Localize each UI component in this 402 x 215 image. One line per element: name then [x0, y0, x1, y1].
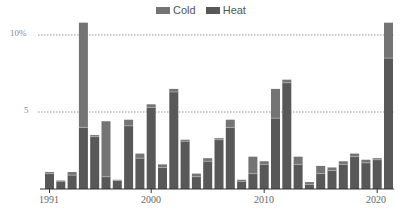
bar-cold-1998 [124, 120, 133, 126]
bar-2020 [373, 158, 382, 189]
bar-2003 [181, 140, 190, 189]
x-label-2000: 2000 [141, 194, 161, 205]
y-label-10: 10% [10, 28, 27, 38]
bar-cold-2007 [226, 120, 235, 128]
bar-heat-2019 [361, 163, 370, 189]
bar-heat-2002 [169, 92, 178, 189]
bar-heat-2015 [316, 174, 325, 189]
stacked-bar-chart [0, 0, 402, 215]
bar-heat-2006 [215, 140, 224, 189]
bar-heat-2008 [237, 181, 246, 189]
bar-1998 [124, 120, 133, 189]
bar-2015 [316, 166, 325, 189]
bar-1996 [102, 121, 111, 189]
bar-heat-2016 [328, 171, 337, 189]
x-ticks [50, 189, 378, 193]
bar-1999 [135, 154, 144, 189]
bar-2000 [147, 104, 156, 189]
bar-1992 [56, 181, 65, 189]
bar-cold-2016 [328, 167, 337, 170]
bar-heat-2001 [158, 167, 167, 189]
bar-heat-2020 [373, 160, 382, 189]
bar-1991 [45, 172, 54, 189]
bar-2007 [226, 120, 235, 189]
bar-heat-1997 [113, 181, 122, 189]
bar-heat-1999 [135, 158, 144, 189]
bar-heat-2007 [226, 127, 235, 189]
bar-heat-2005 [203, 161, 212, 189]
bar-heat-1994 [79, 127, 88, 189]
bar-1997 [113, 180, 122, 189]
bar-cold-2009 [248, 157, 257, 174]
gridlines [38, 35, 394, 112]
bar-2016 [328, 167, 337, 189]
bar-1995 [90, 135, 99, 189]
bar-cold-2012 [282, 80, 291, 83]
bar-1994 [79, 23, 88, 189]
bar-cold-2011 [271, 89, 280, 118]
bar-heat-1995 [90, 137, 99, 189]
bar-heat-2011 [271, 118, 280, 189]
bar-2009 [248, 157, 257, 189]
bar-heat-1992 [56, 181, 65, 189]
bar-heat-1993 [68, 175, 77, 189]
bar-2010 [260, 161, 269, 189]
x-label-1991: 1991 [39, 194, 59, 205]
bar-2002 [169, 89, 178, 189]
bar-heat-2004 [192, 177, 201, 189]
bar-cold-2000 [147, 104, 156, 107]
bar-cold-2017 [339, 161, 348, 164]
bar-2004 [192, 174, 201, 189]
bar-heat-1996 [102, 177, 111, 189]
bar-2013 [294, 157, 303, 189]
bar-cold-2014 [305, 182, 314, 184]
bar-cold-2013 [294, 157, 303, 165]
bar-heat-2009 [248, 174, 257, 189]
bar-heat-2018 [350, 157, 359, 189]
bar-heat-2017 [339, 164, 348, 189]
bar-cold-2004 [192, 174, 201, 177]
y-label-5: 5 [24, 105, 29, 115]
bar-cold-2021 [384, 23, 393, 58]
bar-cold-2001 [158, 164, 167, 167]
bar-cold-2005 [203, 158, 212, 161]
bar-cold-2010 [260, 161, 269, 164]
x-label-2010: 2010 [254, 194, 274, 205]
bar-2008 [237, 180, 246, 189]
bar-2019 [361, 160, 370, 189]
bar-heat-2012 [282, 83, 291, 189]
bar-2021 [384, 23, 393, 189]
bar-2006 [215, 138, 224, 189]
bar-heat-2021 [384, 58, 393, 189]
bar-cold-1999 [135, 154, 144, 159]
bar-cold-2002 [169, 89, 178, 92]
bar-2001 [158, 164, 167, 189]
bar-cold-1994 [79, 23, 88, 128]
bar-heat-1998 [124, 126, 133, 189]
bar-cold-2015 [316, 166, 325, 174]
bar-2005 [203, 158, 212, 189]
bar-2012 [282, 80, 291, 189]
bar-cold-1996 [102, 121, 111, 176]
x-label-2020: 2020 [366, 194, 386, 205]
bar-2018 [350, 154, 359, 189]
bar-heat-1991 [45, 174, 54, 189]
bars [45, 23, 393, 189]
bar-2011 [271, 89, 280, 189]
bar-heat-2014 [305, 184, 314, 189]
bar-1993 [68, 172, 77, 189]
bar-cold-2018 [350, 154, 359, 157]
bar-heat-2003 [181, 141, 190, 189]
bar-2017 [339, 161, 348, 189]
bar-cold-2019 [361, 160, 370, 163]
bar-heat-2010 [260, 164, 269, 189]
bar-heat-2000 [147, 107, 156, 189]
bar-cold-1993 [68, 172, 77, 175]
bar-2014 [305, 182, 314, 189]
bar-heat-2013 [294, 164, 303, 189]
